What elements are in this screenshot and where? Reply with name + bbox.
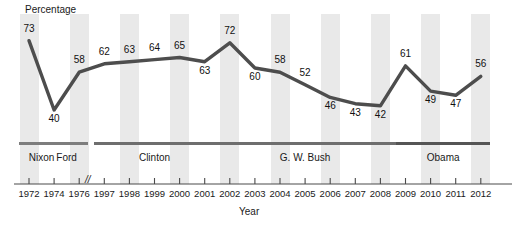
era-label: Obama	[398, 152, 488, 163]
data-value-label: 58	[67, 54, 91, 65]
data-value-label: 73	[17, 23, 41, 34]
data-value-label: 64	[143, 42, 167, 53]
era-label: G. W. Bush	[260, 152, 350, 163]
era-bar-ford	[44, 142, 88, 145]
data-value-label: 72	[218, 25, 242, 36]
data-value-label: 60	[243, 71, 267, 82]
data-value-label: 63	[193, 65, 217, 76]
data-value-label: 43	[343, 107, 367, 118]
era-label: Ford	[22, 152, 112, 163]
data-value-label: 65	[168, 40, 192, 51]
data-value-label: 56	[469, 58, 493, 69]
data-value-label: 49	[419, 94, 443, 105]
data-value-label: 58	[268, 54, 292, 65]
data-value-label: 46	[318, 100, 342, 111]
data-value-label: 52	[293, 67, 317, 78]
data-value-label: 47	[444, 98, 468, 109]
data-value-label: 61	[394, 48, 418, 59]
x-tick-label: 2012	[466, 188, 496, 199]
era-bar-g-w-bush	[195, 142, 415, 145]
data-value-label: 63	[117, 44, 141, 55]
y-axis-label: Percentage	[25, 4, 76, 15]
x-axis-label: Year	[239, 206, 259, 217]
data-value-label: 40	[42, 113, 66, 124]
x-axis-ticks	[29, 178, 481, 184]
axis-break-marker: //	[85, 174, 91, 185]
era-label: Clinton	[110, 152, 200, 163]
data-value-label: 62	[92, 46, 116, 57]
era-bar-obama	[396, 142, 490, 145]
data-value-label: 42	[368, 109, 392, 120]
line-chart: Percentage Year // 734058626364656372605…	[0, 0, 524, 227]
